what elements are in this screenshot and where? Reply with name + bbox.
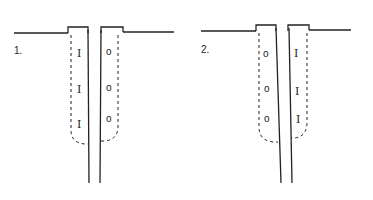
diagram-canvas: 1. I I I o o o 2. o o o I I I [0, 0, 373, 200]
figure-1-left-mark-3: I [77, 118, 81, 131]
figure-1-left-mark-1: I [77, 47, 81, 60]
figure-2-left-mark-3: o [264, 113, 270, 124]
figure-1-right-mark-1: o [106, 46, 112, 57]
seam-right [100, 30, 101, 183]
figure-1-label: 1. [14, 45, 22, 56]
figure-2-right-mark-3: I [296, 113, 300, 126]
tab-right [101, 27, 123, 33]
figure-1-left-mark-2: I [77, 83, 81, 96]
figure-1-right-mark-3: o [106, 113, 112, 124]
seam-left [88, 30, 89, 183]
figure-2-right-mark-1: I [294, 47, 298, 60]
seam-left [276, 28, 281, 183]
figure-2-right-mark-2: I [295, 85, 299, 98]
tab-right [288, 25, 309, 31]
figure-1-right-mark-2: o [106, 82, 112, 93]
figure-2-left-mark-1: o [263, 48, 269, 59]
tab-left [256, 25, 276, 31]
figure-2 [201, 25, 351, 183]
figure-1 [14, 27, 174, 183]
figure-2-label: 2. [201, 44, 209, 55]
figure-2-left-mark-2: o [264, 83, 270, 94]
seam-right [289, 28, 292, 183]
tab-left [68, 27, 88, 33]
